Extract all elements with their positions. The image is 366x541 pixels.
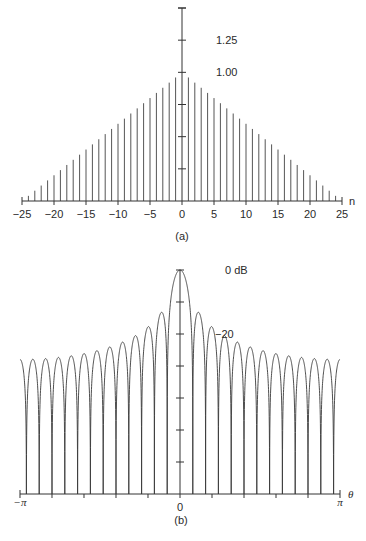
- x-axis-label: n: [349, 195, 355, 207]
- figure: −25−20−15−10−50510152025 1.251.00 n (a) …: [0, 0, 366, 541]
- x-tick-label: −25: [13, 208, 32, 220]
- x-tick-label: 5: [211, 208, 217, 220]
- y-tick-labels: 0 dB−20: [215, 264, 248, 340]
- x-tick-label: 10: [240, 208, 252, 220]
- x-tick-labels: −π0π: [14, 496, 344, 513]
- panel-b-caption: (b): [174, 514, 187, 526]
- x-tick-label: 0: [177, 501, 183, 513]
- spectrum-plot-panel-b: −π0π 0 dB−20 θ (b): [14, 264, 354, 526]
- x-tick-label: 0: [179, 208, 185, 220]
- panel-a-caption: (a): [175, 230, 188, 242]
- x-axis-label: θ: [348, 488, 354, 500]
- x-tick-label: π: [337, 496, 343, 508]
- y-tick-label: 0 dB: [225, 264, 248, 276]
- stem-plot-panel-a: −25−20−15−10−50510152025 1.251.00 n (a): [13, 8, 355, 242]
- x-tick-label: −15: [77, 208, 96, 220]
- x-tick-label: −5: [144, 208, 157, 220]
- x-tick-label: 20: [304, 208, 316, 220]
- y-tick-label: −20: [215, 328, 234, 340]
- x-tick-label: −π: [14, 496, 27, 508]
- x-tick-label: 25: [336, 208, 348, 220]
- x-tick-label: 15: [272, 208, 284, 220]
- y-tick-label: 1.25: [216, 34, 237, 46]
- y-tick-labels: 1.251.00: [216, 34, 237, 78]
- y-tick-label: 1.00: [216, 66, 237, 78]
- x-tick-label: −20: [45, 208, 64, 220]
- x-tick-labels: −25−20−15−10−50510152025: [13, 208, 348, 220]
- x-tick-label: −10: [109, 208, 128, 220]
